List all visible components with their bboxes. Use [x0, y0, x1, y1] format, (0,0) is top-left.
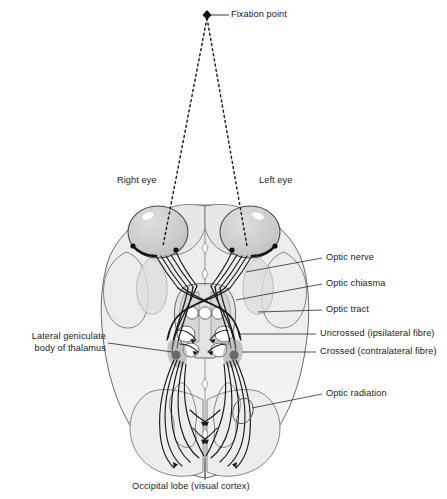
- label-right-eye: Right eye: [117, 175, 157, 187]
- label-lgn-line2: body of thalamus: [10, 343, 106, 355]
- label-occipital-lobe: Occipital lobe (visual cortex): [132, 481, 250, 493]
- label-optic-tract: Optic tract: [326, 304, 369, 316]
- label-optic-nerve: Optic nerve: [326, 252, 374, 264]
- label-optic-radiation: Optic radiation: [326, 388, 387, 400]
- diagram-canvas: [0, 0, 447, 499]
- label-fixation-point: Fixation point: [231, 9, 287, 21]
- label-lateral-geniculate-body: Lateral geniculate body of thalamus: [10, 331, 106, 354]
- label-crossed-fibre: Crossed (contralateral fibre): [320, 346, 437, 358]
- colliculus-circle-2: [199, 307, 211, 319]
- label-uncrossed-fibre: Uncrossed (ipsilateral fibre): [320, 328, 435, 340]
- label-lgn-line1: Lateral geniculate: [10, 331, 106, 343]
- fixation-point-marker: [203, 10, 212, 20]
- visual-pathway-diagram: Fixation point Right eye Left eye Optic …: [0, 0, 447, 499]
- label-optic-chiasma: Optic chiasma: [326, 278, 385, 290]
- label-left-eye: Left eye: [259, 175, 292, 187]
